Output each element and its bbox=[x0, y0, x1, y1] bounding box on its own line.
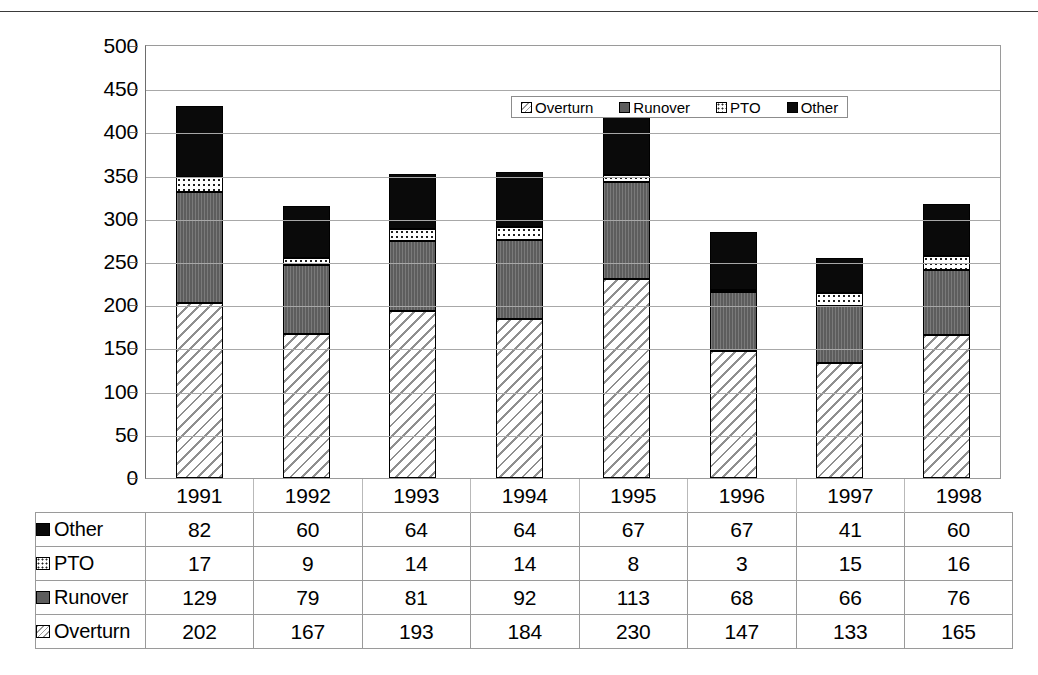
table-cell: 184 bbox=[471, 615, 580, 649]
table-cell: 64 bbox=[471, 513, 580, 547]
y-axis-tick-mark bbox=[129, 176, 138, 177]
table-cell: 60 bbox=[905, 513, 1013, 547]
table-cell: 41 bbox=[796, 513, 905, 547]
table-row: Other8260646467674160 bbox=[36, 513, 1013, 547]
row-header-label: Overturn bbox=[54, 620, 130, 643]
table-cell: 193 bbox=[362, 615, 471, 649]
table-header-row: 19911992199319941995199619971998 bbox=[36, 479, 1013, 513]
table-cell: 3 bbox=[688, 547, 797, 581]
gridline bbox=[146, 393, 1000, 394]
overturn-swatch-icon bbox=[36, 625, 50, 638]
table-cell: 133 bbox=[796, 615, 905, 649]
legend-item-label: Other bbox=[801, 100, 839, 115]
bar-segment-runover[interactable] bbox=[603, 182, 650, 280]
table-cell: 15 bbox=[796, 547, 905, 581]
chart-legend: OverturnRunoverPTOOther bbox=[511, 96, 848, 118]
table-cell: 66 bbox=[796, 581, 905, 615]
runover-swatch-icon bbox=[36, 591, 50, 604]
y-axis-tick-mark bbox=[129, 132, 138, 133]
bar-segment-pto[interactable] bbox=[816, 293, 863, 306]
chart-page: 500450400350300250200150100500 OverturnR… bbox=[0, 0, 1038, 675]
bar-segment-overturn[interactable] bbox=[923, 335, 970, 478]
table-header-year: 1995 bbox=[579, 479, 688, 513]
runover-swatch-icon bbox=[619, 102, 630, 113]
stacked-bar-chart: 500450400350300250200150100500 OverturnR… bbox=[0, 20, 1038, 485]
y-axis-tick-mark bbox=[129, 435, 138, 436]
table-row: Overturn202167193184230147133165 bbox=[36, 615, 1013, 649]
table-row-header-overturn: Overturn bbox=[36, 615, 146, 649]
table-header-year: 1993 bbox=[362, 479, 471, 513]
table-corner-cell bbox=[36, 479, 146, 513]
table-header-year: 1994 bbox=[471, 479, 580, 513]
y-axis-tick-mark bbox=[129, 89, 138, 90]
bar-segment-other[interactable] bbox=[176, 106, 223, 177]
legend-item-overturn[interactable]: Overturn bbox=[521, 100, 593, 115]
pto-swatch-icon bbox=[36, 557, 50, 570]
data-table-body: 19911992199319941995199619971998Other826… bbox=[36, 479, 1013, 649]
bar-segment-overturn[interactable] bbox=[176, 303, 223, 478]
table-cell: 14 bbox=[471, 547, 580, 581]
bar-segment-pto[interactable] bbox=[496, 227, 543, 239]
bar-segment-other[interactable] bbox=[389, 174, 436, 229]
table-header-year: 1991 bbox=[146, 479, 254, 513]
bar-segment-overturn[interactable] bbox=[603, 279, 650, 478]
legend-item-label: Runover bbox=[633, 100, 690, 115]
y-axis-tick-mark bbox=[129, 348, 138, 349]
legend-item-pto[interactable]: PTO bbox=[716, 100, 761, 115]
y-axis-tick-mark bbox=[129, 392, 138, 393]
bar-segment-runover[interactable] bbox=[176, 192, 223, 303]
other-swatch-icon bbox=[787, 102, 798, 113]
y-axis-tick-mark bbox=[129, 262, 138, 263]
legend-item-label: Overturn bbox=[535, 100, 593, 115]
y-axis-labels: 500450400350300250200150100500 bbox=[60, 45, 138, 479]
bar-segment-runover[interactable] bbox=[816, 306, 863, 363]
bar-segment-other[interactable] bbox=[923, 204, 970, 256]
table-row-header-other: Other bbox=[36, 513, 146, 547]
bar-segment-other[interactable] bbox=[603, 117, 650, 175]
table-row-header-pto: PTO bbox=[36, 547, 146, 581]
overturn-swatch-icon bbox=[521, 102, 532, 113]
row-header-label: Runover bbox=[54, 586, 128, 609]
bar-segment-runover[interactable] bbox=[710, 292, 757, 351]
bar-segment-runover[interactable] bbox=[923, 270, 970, 336]
bar-segment-pto[interactable] bbox=[389, 229, 436, 241]
table-cell: 9 bbox=[254, 547, 363, 581]
bar-segment-other[interactable] bbox=[710, 232, 757, 290]
bar-category-1993 bbox=[360, 46, 467, 478]
y-axis-tick-mark bbox=[129, 46, 138, 47]
bar-segment-pto[interactable] bbox=[283, 258, 330, 266]
y-axis-tick-mark bbox=[129, 219, 138, 220]
bar-segment-overturn[interactable] bbox=[496, 319, 543, 478]
gridline bbox=[146, 220, 1000, 221]
legend-item-other[interactable]: Other bbox=[787, 100, 839, 115]
bar-segment-other[interactable] bbox=[283, 206, 330, 258]
table-cell: 147 bbox=[688, 615, 797, 649]
row-header-content: Other bbox=[36, 518, 145, 541]
table-cell: 82 bbox=[146, 513, 254, 547]
other-swatch-icon bbox=[36, 523, 50, 536]
table-header-year: 1998 bbox=[905, 479, 1013, 513]
bar-segment-pto[interactable] bbox=[710, 290, 757, 293]
row-header-label: Other bbox=[54, 518, 103, 541]
table-header-year: 1992 bbox=[254, 479, 363, 513]
table-header-year: 1997 bbox=[796, 479, 905, 513]
table-cell: 92 bbox=[471, 581, 580, 615]
gridline bbox=[146, 349, 1000, 350]
bar-segment-overturn[interactable] bbox=[283, 334, 330, 478]
top-divider bbox=[0, 11, 1038, 12]
table-row: Runover129798192113686676 bbox=[36, 581, 1013, 615]
table-cell: 129 bbox=[146, 581, 254, 615]
row-header-label: PTO bbox=[54, 552, 94, 575]
legend-item-runover[interactable]: Runover bbox=[619, 100, 690, 115]
bar-segment-overturn[interactable] bbox=[389, 311, 436, 478]
table-cell: 81 bbox=[362, 581, 471, 615]
bar-segment-overturn[interactable] bbox=[710, 351, 757, 478]
bar-segment-overturn[interactable] bbox=[816, 363, 863, 478]
bar-segment-runover[interactable] bbox=[283, 265, 330, 333]
bar-segment-runover[interactable] bbox=[389, 241, 436, 311]
table-cell: 79 bbox=[254, 581, 363, 615]
bar-segment-pto[interactable] bbox=[176, 177, 223, 192]
row-header-content: Runover bbox=[36, 586, 145, 609]
gridline bbox=[146, 133, 1000, 134]
table-cell: 14 bbox=[362, 547, 471, 581]
